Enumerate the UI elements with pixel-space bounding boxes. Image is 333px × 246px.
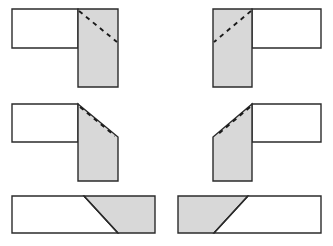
horizontal-member-unshaded [12,9,78,48]
figure-root [0,0,333,246]
vertical-member-shaded [78,9,118,87]
joint-diagram-svg [0,0,333,246]
panel-bottom-right [178,196,321,233]
vertical-member-shaded [213,9,252,87]
horizontal-member-unshaded [12,104,78,142]
panel-bottom-left [12,196,155,233]
horizontal-member-unshaded [252,9,321,48]
horizontal-member-unshaded [252,104,321,142]
